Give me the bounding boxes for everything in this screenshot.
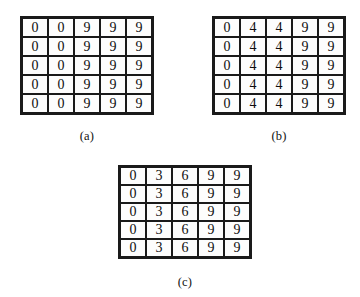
matrix-cell: 0: [120, 239, 146, 257]
matrix-cell: 6: [172, 185, 198, 203]
matrix-cell: 0: [214, 18, 240, 37]
matrix-cell: 9: [198, 203, 224, 221]
matrix-cell: 9: [224, 203, 250, 221]
matrix-cell: 0: [120, 185, 146, 203]
panel-caption-b: (b): [212, 129, 346, 144]
matrix-cell: 4: [266, 37, 292, 56]
matrix-row: 04499: [214, 56, 344, 75]
matrix-cell: 0: [120, 167, 146, 185]
matrix-cell: 0: [22, 94, 48, 113]
panel-caption-a: (a): [20, 129, 154, 144]
matrix-cell: 4: [266, 75, 292, 94]
matrix-cell: 4: [240, 94, 266, 113]
matrix-cell: 4: [266, 94, 292, 113]
matrix-cell: 9: [292, 94, 318, 113]
matrix-cell: 9: [198, 185, 224, 203]
matrix-row: 04499: [214, 75, 344, 94]
matrix-cell: 0: [214, 75, 240, 94]
figure-panel-a: 0099900999009990099900999 (a): [20, 16, 154, 144]
figure-panel-c: 0369903699036990369903699 (c): [118, 165, 252, 290]
matrix-cell: 0: [22, 56, 48, 75]
matrix-row: 03699: [120, 185, 250, 203]
matrix-cell: 9: [126, 94, 152, 113]
matrix-row: 00999: [22, 18, 152, 37]
matrix-cell: 0: [48, 94, 74, 113]
matrix-cell: 9: [126, 75, 152, 94]
matrix-cell: 9: [100, 94, 126, 113]
matrix-cell: 9: [100, 75, 126, 94]
matrix-cell: 9: [100, 37, 126, 56]
matrix-cell: 0: [48, 18, 74, 37]
matrix-cell: 9: [126, 37, 152, 56]
matrix-cell: 3: [146, 221, 172, 239]
matrix-cell: 9: [198, 167, 224, 185]
figure-panel-b: 0449904499044990449904499 (b): [212, 16, 346, 144]
matrix-cell: 9: [224, 185, 250, 203]
matrix-cell: 3: [146, 239, 172, 257]
matrix-row: 04499: [214, 37, 344, 56]
matrix-row: 04499: [214, 94, 344, 113]
matrix-cell: 4: [240, 18, 266, 37]
matrix-cell: 0: [22, 75, 48, 94]
matrix-grid-b: 0449904499044990449904499: [212, 16, 346, 115]
matrix-row: 04499: [214, 18, 344, 37]
matrix-cell: 9: [224, 239, 250, 257]
matrix-cell: 3: [146, 167, 172, 185]
matrix-cell: 9: [74, 18, 100, 37]
matrix-cell: 4: [240, 56, 266, 75]
matrix-cell: 9: [318, 75, 344, 94]
matrix-cell: 6: [172, 239, 198, 257]
matrix-cell: 9: [74, 37, 100, 56]
matrix-cell: 4: [266, 18, 292, 37]
matrix-cell: 9: [100, 56, 126, 75]
matrix-row: 03699: [120, 203, 250, 221]
matrix-cell: 9: [224, 221, 250, 239]
matrix-cell: 0: [48, 56, 74, 75]
matrix-cell: 9: [292, 37, 318, 56]
matrix-cell: 9: [292, 75, 318, 94]
matrix-cell: 0: [120, 203, 146, 221]
matrix-cell: 9: [292, 56, 318, 75]
matrix-cell: 4: [240, 37, 266, 56]
matrix-row: 03699: [120, 221, 250, 239]
matrix-row: 00999: [22, 94, 152, 113]
matrix-cell: 0: [214, 37, 240, 56]
matrix-cell: 9: [126, 56, 152, 75]
matrix-cell: 6: [172, 167, 198, 185]
matrix-grid-c: 0369903699036990369903699: [118, 165, 252, 259]
matrix-cell: 0: [48, 37, 74, 56]
matrix-row: 00999: [22, 37, 152, 56]
matrix-cell: 6: [172, 221, 198, 239]
matrix-row: 03699: [120, 167, 250, 185]
matrix-cell: 9: [198, 239, 224, 257]
matrix-cell: 6: [172, 203, 198, 221]
matrix-cell: 9: [74, 94, 100, 113]
matrix-cell: 9: [198, 221, 224, 239]
matrix-cell: 9: [292, 18, 318, 37]
matrix-row: 00999: [22, 75, 152, 94]
matrix-cell: 4: [240, 75, 266, 94]
matrix-grid-a: 0099900999009990099900999: [20, 16, 154, 115]
matrix-row: 03699: [120, 239, 250, 257]
matrix-cell: 4: [266, 56, 292, 75]
matrix-cell: 9: [318, 37, 344, 56]
matrix-cell: 9: [74, 56, 100, 75]
matrix-cell: 0: [48, 75, 74, 94]
matrix-cell: 9: [100, 18, 126, 37]
panel-caption-c: (c): [118, 275, 252, 290]
matrix-cell: 9: [224, 167, 250, 185]
matrix-cell: 9: [318, 56, 344, 75]
matrix-cell: 9: [318, 94, 344, 113]
matrix-cell: 0: [22, 18, 48, 37]
matrix-cell: 0: [214, 94, 240, 113]
matrix-cell: 0: [214, 56, 240, 75]
matrix-cell: 0: [120, 221, 146, 239]
matrix-cell: 9: [126, 18, 152, 37]
matrix-cell: 0: [22, 37, 48, 56]
matrix-cell: 3: [146, 185, 172, 203]
matrix-row: 00999: [22, 56, 152, 75]
matrix-cell: 3: [146, 203, 172, 221]
matrix-cell: 9: [74, 75, 100, 94]
matrix-cell: 9: [318, 18, 344, 37]
